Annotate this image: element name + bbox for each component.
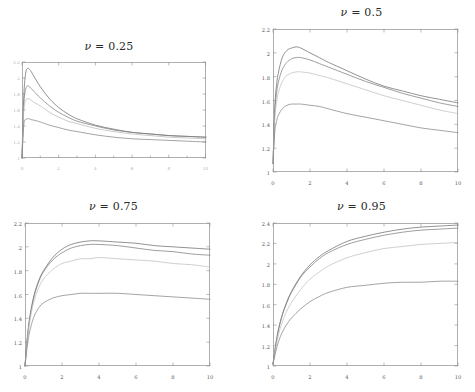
- panel-title-nu-05: ν = 0.5: [248, 6, 475, 19]
- svg-text:8: 8: [419, 180, 422, 186]
- y-ticklabel-svg: 2.2 2 1.8 1.6 1.4 1.2 1: [8, 58, 21, 162]
- svg-text:1.8: 1.8: [262, 282, 270, 288]
- x-ticklabels-nu-075: 0 2 4 6 8 10: [17, 368, 218, 379]
- y-tickmarks: [273, 223, 458, 366]
- svg-text:1.4: 1.4: [262, 122, 271, 128]
- svg-text:2.4: 2.4: [262, 221, 271, 227]
- plot-area-nu-025: 2.2 2 1.8 1.6 1.4 1.2 1 0 2 4 6 8 10: [22, 62, 206, 158]
- panel-title-equals: =: [351, 6, 364, 19]
- curve-group-nu-075: [25, 241, 210, 366]
- curve-2: [273, 228, 458, 364]
- curve-1: [273, 225, 458, 364]
- panel-title-symbol: ν: [341, 6, 348, 19]
- svg-text:1.8: 1.8: [14, 269, 22, 275]
- svg-text:6: 6: [131, 166, 134, 171]
- x-ticklabel-svg: 0 2 4 6 8 10: [14, 164, 214, 174]
- plot-area-nu-075: 2.2 2 1.8 1.6 1.4 1.2 1 0 2 4 6 8 10: [25, 223, 210, 366]
- axes-frame: [273, 223, 457, 365]
- y-ticklabel-svg: 2.2 2 1.8 1.6 1.4 1.2 1: [256, 25, 271, 176]
- svg-text:4: 4: [345, 374, 349, 380]
- plot-area-nu-05: 2.2 2 1.8 1.6 1.4 1.2 1 0 2 4 6 8 10: [273, 29, 458, 172]
- svg-text:1.2: 1.2: [14, 340, 22, 346]
- plot-svg-nu-095: [273, 223, 458, 366]
- curve-3: [25, 258, 210, 366]
- svg-text:2: 2: [308, 374, 311, 380]
- svg-text:0: 0: [21, 166, 24, 171]
- svg-text:2.2: 2.2: [262, 27, 270, 33]
- svg-text:4: 4: [345, 180, 349, 186]
- x-ticklabels-nu-095: 0 2 4 6 8 10: [265, 368, 466, 379]
- curve-group-nu-05: [273, 47, 458, 164]
- svg-text:2: 2: [57, 166, 60, 171]
- panel-title-value: 0.25: [108, 40, 133, 53]
- svg-text:2.2: 2.2: [14, 221, 22, 227]
- x-tickmarks: [25, 223, 210, 366]
- panel-nu-075: ν = 0.75: [0, 200, 227, 386]
- svg-text:10: 10: [203, 166, 209, 171]
- x-ticklabel-svg: 0 2 4 6 8 10: [17, 372, 218, 383]
- figure-canvas: ν = 0.25: [0, 0, 475, 392]
- svg-text:2: 2: [267, 262, 270, 268]
- y-ticklabel-svg: 2.2 2 1.8 1.6 1.4 1.2 1: [8, 219, 23, 370]
- panel-title-symbol: ν: [337, 200, 344, 213]
- panel-title-value: 0.5: [364, 6, 382, 19]
- panel-title-nu-075: ν = 0.75: [0, 200, 227, 213]
- svg-text:1.6: 1.6: [14, 293, 22, 299]
- svg-text:6: 6: [382, 180, 385, 186]
- panel-title-value: 0.75: [113, 200, 138, 213]
- x-tickmarks: [273, 223, 458, 366]
- svg-text:1.4: 1.4: [262, 323, 271, 329]
- axes-frame: [22, 62, 205, 157]
- curve-group-nu-025: [22, 68, 206, 158]
- svg-text:4: 4: [94, 166, 97, 171]
- curve-2: [25, 244, 210, 366]
- panel-nu-05: ν = 0.5: [248, 6, 475, 192]
- svg-text:1.6: 1.6: [262, 99, 270, 105]
- curve-4: [273, 104, 458, 164]
- svg-text:10: 10: [455, 374, 462, 380]
- x-tickmarks: [22, 62, 206, 158]
- svg-text:1.2: 1.2: [13, 140, 20, 145]
- curve-3: [22, 99, 206, 158]
- svg-text:2: 2: [60, 374, 63, 380]
- svg-text:1.8: 1.8: [13, 92, 20, 97]
- svg-text:2: 2: [19, 245, 22, 251]
- panel-title-equals: =: [100, 200, 113, 213]
- x-ticklabel-svg: 0 2 4 6 8 10: [265, 372, 466, 383]
- svg-text:0: 0: [23, 374, 26, 380]
- panel-title-nu-095: ν = 0.95: [248, 200, 475, 213]
- svg-text:1.4: 1.4: [13, 124, 20, 129]
- svg-text:1.6: 1.6: [262, 303, 270, 309]
- panel-title-symbol: ν: [84, 40, 91, 53]
- svg-text:8: 8: [167, 166, 170, 171]
- svg-text:8: 8: [171, 374, 174, 380]
- y-ticklabel-svg: 2.4 2.2 2 1.8 1.6 1.4 1.2 1: [256, 219, 271, 370]
- curve-2: [273, 57, 458, 163]
- curve-group-nu-095: [273, 225, 458, 364]
- y-ticklabels-nu-025: 2.2 2 1.8 1.6 1.4 1.2 1: [8, 58, 21, 162]
- svg-text:10: 10: [207, 374, 214, 380]
- svg-text:1.2: 1.2: [262, 146, 270, 152]
- svg-text:10: 10: [455, 180, 462, 186]
- svg-text:1.2: 1.2: [262, 344, 270, 350]
- curve-4: [22, 119, 206, 158]
- x-ticklabel-svg: 0 2 4 6 8 10: [265, 178, 466, 189]
- svg-text:8: 8: [419, 374, 422, 380]
- svg-text:2: 2: [17, 76, 20, 81]
- panel-title-value: 0.95: [361, 200, 386, 213]
- y-ticklabels-nu-095: 2.4 2.2 2 1.8 1.6 1.4 1.2 1: [256, 219, 271, 370]
- curve-3: [273, 72, 458, 164]
- axes-frame: [25, 223, 209, 365]
- svg-text:2: 2: [267, 51, 270, 57]
- svg-text:0: 0: [271, 374, 274, 380]
- svg-text:2: 2: [308, 180, 311, 186]
- x-ticklabels-nu-025: 0 2 4 6 8 10: [14, 159, 214, 169]
- svg-text:2.2: 2.2: [13, 60, 20, 65]
- plot-area-nu-095: 2.4 2.2 2 1.8 1.6 1.4 1.2 1 0 2 4 6 8: [273, 223, 458, 366]
- panel-title-equals: =: [95, 40, 108, 53]
- curve-2: [22, 86, 206, 158]
- svg-text:0: 0: [271, 180, 274, 186]
- svg-text:2.2: 2.2: [262, 241, 270, 247]
- curve-4: [25, 293, 210, 366]
- svg-text:1.8: 1.8: [262, 75, 270, 81]
